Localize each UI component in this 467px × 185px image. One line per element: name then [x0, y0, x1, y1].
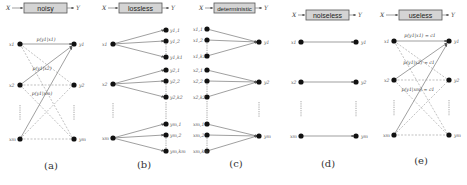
channel-types-diagram: X noisy Y p(y1|x1) p(y1|x2) p(y1|xm) x1 … [0, 0, 467, 185]
input-symbol-x: X [101, 4, 107, 11]
channel-label-noiseless: noiseless [313, 12, 343, 19]
panel-d-noiseless: X noiseless Y x1 x2 xm y1 y2 ym (d) [290, 10, 369, 169]
input-label: x1,2 [193, 38, 203, 43]
input-label: x2 [9, 83, 15, 88]
output-symbol-y: Y [171, 4, 176, 11]
output-label: ym,2 [169, 133, 181, 139]
output-label: y1,1 [169, 28, 180, 34]
input-symbol-x: X [291, 11, 297, 18]
input-label: xm,1 [193, 122, 204, 127]
caption-b: (b) [137, 159, 151, 170]
output-label: ym,1 [169, 122, 181, 128]
output-label: y2 [78, 83, 85, 89]
input-label: x1,k1 [193, 54, 206, 59]
caption-d: (d) [321, 158, 335, 169]
input-label: x2,1 [193, 68, 203, 73]
output-label: y2,k2 [169, 95, 183, 101]
prob-label: p(y1|x1) = c1 [404, 33, 435, 39]
input-node [17, 136, 22, 141]
input-label: xm [383, 133, 391, 138]
input-label: x1,1 [193, 27, 203, 32]
input-label: x2,2 [193, 79, 203, 84]
input-label: x1 [102, 42, 108, 47]
prob-label: p(y1|xm) = c1 [402, 87, 435, 93]
input-symbol-x: X [5, 4, 11, 11]
input-label: x1 [9, 42, 15, 47]
output-label: ym [78, 137, 87, 143]
output-label: y1 [78, 42, 85, 48]
output-node [71, 82, 76, 87]
input-symbol-x: X [379, 11, 385, 18]
caption-a: (a) [44, 160, 58, 171]
output-label: ym,km [169, 149, 186, 155]
output-label: ym [453, 133, 462, 139]
input-label: x2 [384, 78, 390, 83]
panel-a-noisy: X noisy Y p(y1|x1) p(y1|x2) p(y1|xm) x1 … [5, 3, 87, 171]
panel-c-deterministic: X deterministic Y x1,1 x1,2 x1, [193, 3, 272, 169]
input-label: x2 [102, 82, 108, 87]
output-label: y2 [263, 80, 270, 86]
channel-label-lossless: lossless [128, 5, 153, 12]
prob-label: p(y1|x2) = c1 [403, 60, 434, 66]
channel-label-deterministic: deterministic [217, 5, 252, 12]
panel-e-useless: X useless Y p(y1|x1) = c1 p(y1|x2) = c1 … [379, 10, 462, 166]
output-label: y2,2 [169, 79, 180, 85]
input-label: xm [9, 137, 17, 142]
prob-label: p(y1|x1) [36, 37, 55, 43]
output-label: ym [263, 134, 272, 140]
output-label: y2 [360, 80, 367, 86]
output-label: y1,2 [169, 39, 180, 45]
output-label: y1,k1 [169, 55, 183, 61]
caption-c: (c) [229, 158, 243, 169]
output-label: y1 [263, 40, 270, 46]
input-node [17, 41, 22, 46]
input-label: xm,km [193, 149, 209, 154]
panel-b-lossless: X lossless Y x1 x2 xm y1,1 [101, 3, 186, 170]
output-label: y2,1 [169, 68, 180, 74]
channel-label-noisy: noisy [37, 5, 54, 13]
output-symbol-y: Y [451, 11, 456, 18]
input-label: x1 [291, 40, 297, 45]
input-label: xm,2 [193, 133, 204, 138]
output-node [71, 136, 76, 141]
output-symbol-y: Y [358, 11, 363, 18]
output-label: y1 [453, 39, 460, 45]
input-symbol-x: X [198, 4, 204, 11]
input-label: x2 [291, 80, 297, 85]
input-label: x2,k2 [193, 95, 206, 100]
output-label: ym [360, 134, 369, 140]
output-label: y2 [453, 78, 460, 84]
output-symbol-y: Y [264, 4, 269, 11]
output-symbol-y: Y [76, 4, 81, 11]
prob-label: p(y1|x2) [32, 66, 51, 72]
input-node [17, 82, 22, 87]
output-label: y1 [360, 40, 367, 46]
caption-e: (e) [414, 155, 428, 166]
output-node [71, 41, 76, 46]
input-label: xm [102, 136, 110, 141]
input-label: x1 [384, 39, 390, 44]
input-label: xm [290, 134, 298, 139]
channel-label-useless: useless [409, 12, 433, 19]
